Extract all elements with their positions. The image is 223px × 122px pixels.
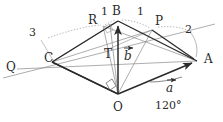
annotation-arc-b-p (122, 20, 150, 28)
vector-o-a (118, 63, 192, 94)
vector-label-a: a (166, 82, 173, 94)
point-label-b: B (112, 5, 121, 17)
figure-canvas (0, 0, 223, 122)
point-label-q: Q (6, 61, 16, 73)
segment-r-a (103, 26, 197, 61)
length-label-pa: 2 (185, 24, 192, 35)
point-label-p: P (155, 15, 163, 27)
segment-c-p (52, 30, 152, 62)
point-label-c: C (44, 52, 53, 64)
point-label-r: R (88, 14, 97, 26)
point-label-o: O (113, 101, 123, 113)
length-label-rb: 1 (101, 6, 108, 17)
length-label-cr: 3 (29, 27, 36, 38)
segment-c-o (52, 62, 118, 94)
angle-label-120: 120° (155, 100, 182, 111)
point-label-a: A (204, 53, 213, 65)
length-label-bp: 1 (137, 6, 144, 17)
vector-geometry-figure: B R P A C Q T O 1 1 3 2 a b 120° (0, 0, 223, 122)
point-label-t: T (104, 48, 112, 60)
vector-label-b: b (124, 50, 132, 62)
